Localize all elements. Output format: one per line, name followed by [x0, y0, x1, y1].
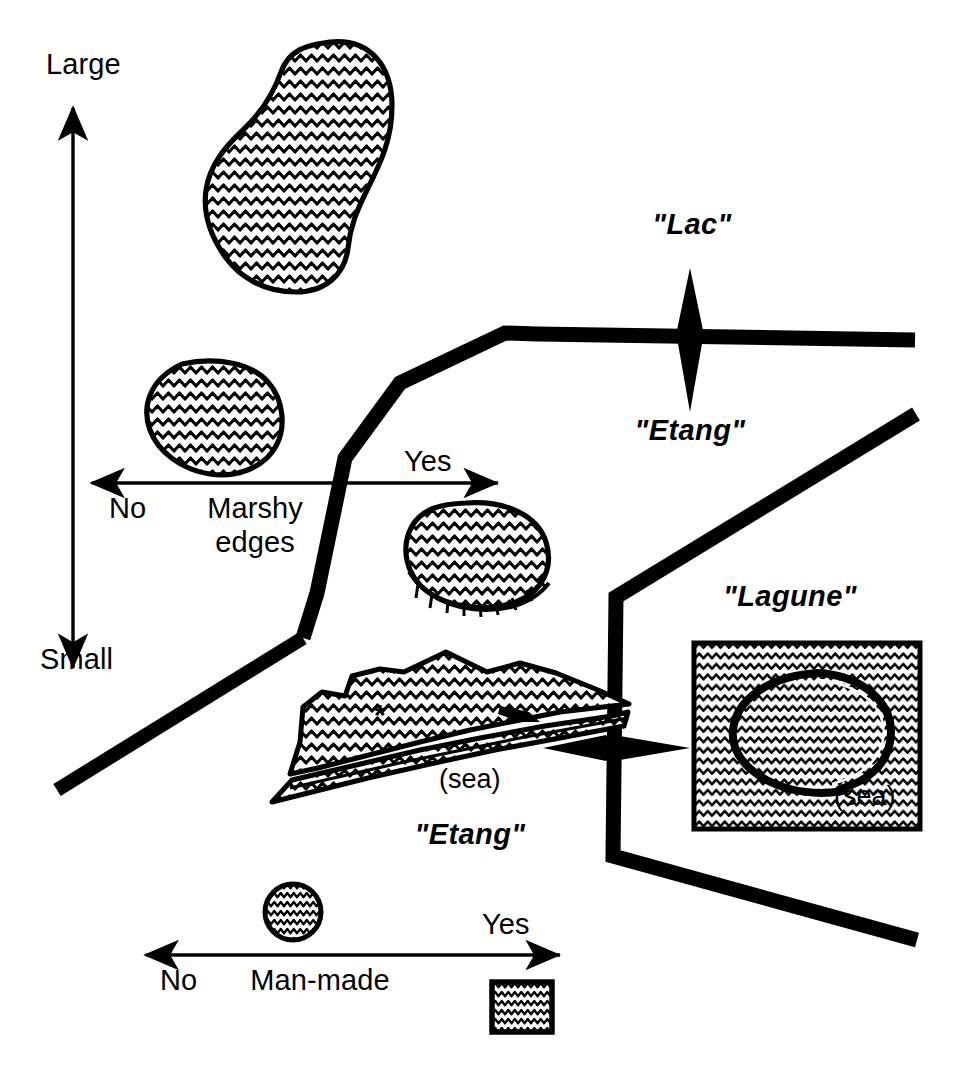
- lake-typology-diagram: Large Small No Marshy edges Yes No Man-m…: [0, 0, 963, 1079]
- class-label-lagune: "Lagune": [723, 580, 857, 612]
- class-label-etang-coastal: "Etang": [415, 818, 526, 850]
- sea-annotation-lagoon: (sea): [834, 781, 896, 811]
- asterisk-marker: *: [374, 700, 386, 730]
- marshy-edges-axis-left-label: No: [109, 492, 146, 524]
- water-body-small-natural-pond: [265, 884, 321, 940]
- man-made-axis-left-label: No: [160, 964, 197, 996]
- water-body-medium-lake: [147, 361, 282, 475]
- class-label-lac: "Lac": [652, 208, 731, 240]
- marshy-edges-axis-right-label: Yes: [404, 445, 452, 477]
- water-body-man-made-reservoir: [492, 982, 552, 1032]
- size-axis-high-label: Large: [46, 48, 121, 80]
- water-body-large-lake: [205, 42, 392, 292]
- man-made-axis-name: Man-made: [250, 964, 389, 996]
- class-label-etang-upper: "Etang": [635, 414, 746, 446]
- size-axis-low-label: Small: [40, 643, 113, 675]
- marshy-edges-axis-name-line1: Marshy: [207, 492, 303, 524]
- sea-annotation-coastal: (sea): [439, 764, 501, 794]
- lac-etang-divider-arrow: [677, 268, 703, 412]
- marshy-edges-axis-name-line2: edges: [215, 526, 295, 558]
- water-body-marshy-pond: [406, 503, 549, 617]
- man-made-axis-right-label: Yes: [482, 908, 530, 940]
